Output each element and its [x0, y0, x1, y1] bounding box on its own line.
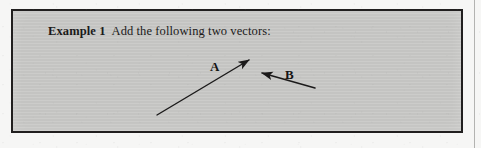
vector-diagram: A B [13, 11, 465, 135]
page-column-rule [474, 0, 475, 148]
vector-diagram-canvas [13, 11, 465, 135]
example-box: Example 1Add the following two vectors: … [11, 9, 463, 133]
vector-b-label: B [285, 68, 294, 81]
vector-a-arrow [157, 60, 249, 115]
vector-a-label: A [210, 60, 219, 73]
